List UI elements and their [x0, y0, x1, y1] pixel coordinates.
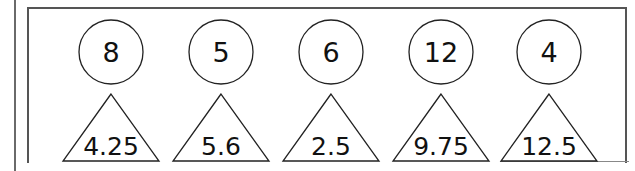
circle-number: 6 — [322, 37, 339, 68]
triangle-number: 5.6 — [201, 132, 241, 161]
number-pair: 412.5 — [501, 20, 597, 161]
number-pair: 84.25 — [63, 20, 159, 161]
triangle-number: 12.5 — [521, 132, 577, 161]
number-pair: 55.6 — [173, 20, 269, 161]
triangle-number: 9.75 — [413, 132, 469, 161]
circle-number: 5 — [212, 37, 229, 68]
circle-number: 4 — [540, 37, 557, 68]
circle-number: 12 — [424, 37, 458, 68]
number-pair: 62.5 — [283, 20, 379, 161]
number-pair: 129.75 — [393, 20, 489, 161]
shapes-canvas: 84.2555.662.5129.75412.5 — [0, 0, 635, 171]
circle-number: 8 — [102, 37, 119, 68]
triangle-number: 4.25 — [83, 132, 139, 161]
triangle-number: 2.5 — [311, 132, 351, 161]
